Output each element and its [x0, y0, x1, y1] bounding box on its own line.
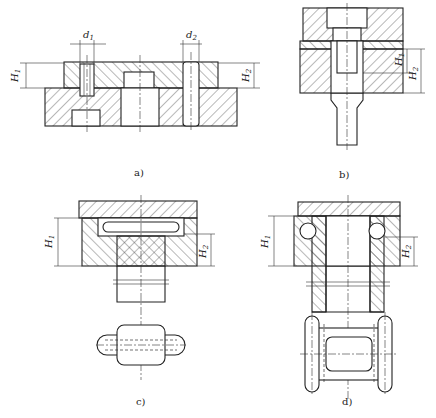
screw-head	[72, 110, 100, 126]
caption-d: d)	[342, 396, 352, 407]
dim-H1: H1	[9, 69, 22, 83]
panel-c: H1 H2 c)	[43, 195, 215, 407]
caption-b: b)	[339, 169, 349, 180]
panel-a: d1 d2 H1 H2 a)	[9, 29, 260, 178]
panel-d: H1 H2 d)	[259, 195, 418, 407]
dim-d-H2: H2	[400, 244, 413, 259]
dim-b-H2: H2	[407, 66, 420, 81]
technical-drawing: d1 d2 H1 H2 a) H1 H2 b)	[0, 0, 436, 418]
panel-b: H1 H2 b)	[300, 3, 425, 180]
top-plate-c	[79, 201, 197, 218]
dim-c-H1: H1	[43, 235, 56, 249]
center-recess	[124, 72, 154, 88]
dim-d1: d1	[83, 29, 94, 42]
dim-c-H2: H2	[197, 244, 210, 259]
dim-H2: H2	[240, 68, 253, 83]
dim-d-H1: H1	[259, 235, 272, 249]
caption-c: c)	[136, 396, 146, 407]
top-plate-d	[298, 202, 400, 216]
dim-d2: d2	[186, 29, 197, 42]
caption-a: a)	[134, 167, 144, 178]
ball-left	[300, 223, 316, 239]
ball-right	[369, 223, 385, 239]
